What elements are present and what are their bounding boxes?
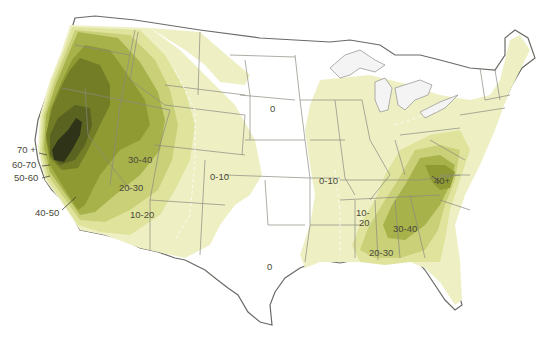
- label-east-30-40: 30-40: [393, 224, 417, 234]
- label-70-plus: 70 +: [17, 145, 36, 155]
- label-60-70: 60-70: [12, 160, 36, 170]
- label-west-20-30: 20-30: [119, 183, 143, 193]
- label-40-50: 40-50: [35, 208, 59, 218]
- label-west-30-40: 30-40: [128, 155, 152, 165]
- label-west-10-20: 10-20: [130, 210, 154, 220]
- us-map: [0, 0, 560, 342]
- label-colorado-0-10: 0-10: [210, 172, 229, 182]
- label-east-10-20-line2: 20: [359, 218, 370, 228]
- label-east-20-30: 20-30: [369, 248, 393, 258]
- label-missouri-0-10: 0-10: [319, 176, 338, 186]
- label-east-40-plus: 40+: [434, 176, 450, 186]
- label-dakota-0: 0: [270, 104, 275, 114]
- label-50-60: 50-60: [14, 173, 38, 183]
- label-texas-0: 0: [267, 262, 272, 272]
